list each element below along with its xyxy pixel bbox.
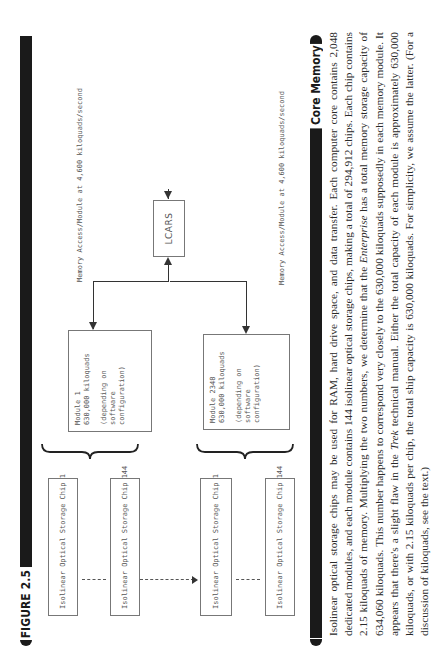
- module-2348-note-3: configuration): [253, 341, 262, 423]
- module-2348-capacity: 630,000 kiloquads: [218, 341, 227, 423]
- module-1-capacity: 630,000 kiloquads: [83, 337, 92, 425]
- arrow-to-lcars-icon: [164, 257, 172, 265]
- body-text-italic-enterprise: Enterprise: [357, 215, 369, 263]
- section-title: Core Memory: [309, 44, 323, 129]
- chip-box-group2-chip144: Isolinear Optical Storage Chip 144: [265, 478, 295, 616]
- connector-module2348-vertical: [170, 281, 246, 282]
- dashed-connector-between-groups: [140, 579, 194, 580]
- module-2348-name: Module 2348: [209, 341, 218, 423]
- dashed-arrow-head-icon: [192, 576, 198, 584]
- chip-box-group1-chip1: Isolinear Optical Storage Chip 1: [48, 478, 78, 616]
- figure-header-bar: [20, 36, 32, 638]
- figure-bar-cap: [20, 639, 32, 646]
- rotated-page: FIGURE 2.5 Memory Access/Module at 4,600…: [0, 0, 441, 664]
- arrow-to-module2348-icon: [242, 326, 250, 334]
- module-1-note-2: software: [109, 337, 118, 425]
- body-text-italic-trek: Trek: [388, 430, 400, 450]
- module-2348-note-2: software: [244, 341, 253, 423]
- module-1-note-3: configuration): [118, 337, 127, 425]
- arrow-from-lcars-icon: [164, 191, 172, 199]
- brace-group-2-icon: [195, 442, 295, 462]
- figure-label: FIGURE 2.5: [19, 567, 33, 640]
- section-body-text: Isolinear optical storage chips may be u…: [326, 32, 432, 636]
- ellipsis-dash-group2: [236, 579, 260, 580]
- connector-module1-down: [93, 282, 94, 322]
- connector-module1-to-lcars: [94, 281, 169, 282]
- module-1-note: (depending on: [100, 337, 109, 425]
- memory-access-label-module-1: Memory Access/Module at 4,600 kiloquads/…: [76, 88, 85, 282]
- memory-access-label-module-2348: Memory Access/Module at 4,600 kiloquads/…: [278, 91, 287, 285]
- chip-label: Isolinear Optical Storage Chip 144: [276, 466, 285, 609]
- section-bar-cap-right: [310, 35, 322, 42]
- brace-group-1-icon: [40, 442, 140, 462]
- module-1-box: Module 1 630,000 kiloquads (depending on…: [68, 330, 152, 432]
- lcars-box: LCARS: [153, 200, 185, 257]
- chip-box-group1-chip144: Isolinear Optical Storage Chip 144: [110, 478, 140, 616]
- lcars-label: LCARS: [164, 213, 174, 245]
- chip-label: Isolinear Optical Storage Chip 1: [212, 474, 221, 609]
- arrow-to-module1-icon: [89, 322, 97, 330]
- section-bar-cap-left: [310, 639, 322, 646]
- module-2348-note: (depending on: [235, 341, 244, 423]
- chip-label: Isolinear Optical Storage Chip 1: [59, 474, 68, 609]
- ellipsis-dash-group1: [82, 579, 106, 580]
- connector-lcars-in-1: [168, 264, 169, 282]
- chip-box-group2-chip1: Isolinear Optical Storage Chip 1: [200, 478, 232, 616]
- connector-module2348-horizontal: [246, 281, 247, 326]
- section-header-bar: [310, 42, 322, 638]
- chip-label: Isolinear Optical Storage Chip 144: [121, 466, 130, 609]
- module-2348-box: Module 2348 630,000 kiloquads (depending…: [203, 334, 290, 430]
- module-1-name: Module 1: [74, 337, 83, 425]
